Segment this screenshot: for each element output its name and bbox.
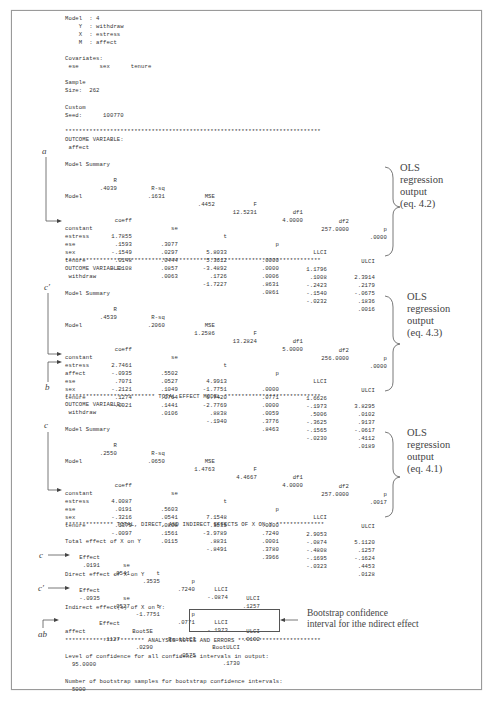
arrow-a (46, 157, 58, 221)
brace-model-1 (385, 167, 400, 256)
arrow-c-prime (48, 293, 58, 354)
label-c-prime: c′ (44, 282, 50, 292)
label-ab: ab (38, 629, 47, 639)
arrow-c (48, 432, 58, 490)
label-a: a (42, 146, 47, 156)
label-c: c (44, 420, 48, 430)
label-b: b (45, 382, 50, 392)
bootstrap-note: Bootstrap confidence interval for ithe n… (307, 608, 419, 630)
arrow-b (48, 362, 58, 382)
brace-model-3 (385, 432, 400, 517)
brace-model-2 (385, 296, 400, 391)
label-c-prime-direct: c′ (38, 583, 44, 593)
label-c-total: c (39, 550, 43, 560)
brace-and-arrow-overlay (0, 0, 493, 719)
arrow-ab (43, 620, 55, 628)
